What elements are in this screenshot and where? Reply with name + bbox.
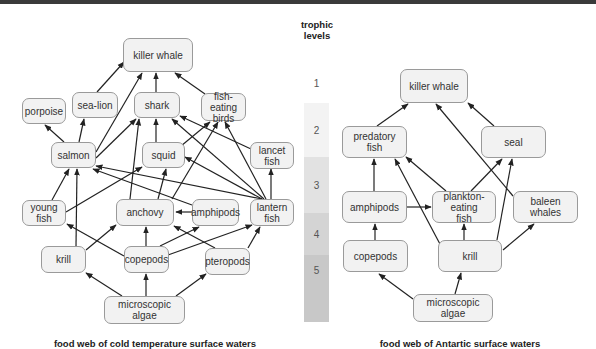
caption-left: food web of cold temperature surface wat… <box>20 338 290 349</box>
node-amphipods-right: amphipods <box>342 191 407 223</box>
node-lancet-fish: lancet fish <box>250 142 294 169</box>
node-copepods-left: copepods <box>124 246 169 273</box>
node-killer-whale-left: killer whale <box>123 38 193 72</box>
trophic-level-4-label: 4 <box>314 229 320 240</box>
trophic-level-5: 5 <box>304 255 329 322</box>
trophic-levels-title: trophic levels <box>292 19 342 41</box>
food-web-arrows <box>0 0 596 349</box>
trophic-level-1-label: 1 <box>314 78 320 89</box>
node-copepods-right: copepods <box>343 240 408 272</box>
node-squid: squid <box>142 142 185 168</box>
trophic-level-4: 4 <box>304 213 329 255</box>
node-seal: seal <box>481 126 546 158</box>
node-sea-lion: sea-lion <box>72 92 118 118</box>
trophic-level-1: 1 <box>304 64 329 103</box>
node-pteropods: pteropods <box>205 248 250 275</box>
node-killer-whale-right: killer whale <box>400 69 468 103</box>
trophic-level-2-label: 2 <box>314 125 320 136</box>
node-plankton-eating-fish: plankton-eating fish <box>432 191 496 223</box>
node-baleen-whales: baleen whales <box>513 191 578 223</box>
trophic-level-5-label: 5 <box>314 265 320 276</box>
node-amphipods-left: amphipods <box>192 199 239 226</box>
trophic-level-3: 3 <box>304 157 329 213</box>
trophic-level-3-label: 3 <box>314 180 320 191</box>
node-anchovy: anchovy <box>116 199 174 226</box>
node-salmon: salmon <box>51 142 96 168</box>
node-young-fish: young fish <box>22 200 66 226</box>
node-krill-left: krill <box>41 246 86 273</box>
node-lantern-fish: lantern fish <box>250 199 294 226</box>
node-predatory-fish: predatory fish <box>342 126 407 158</box>
node-porpoise: porpoise <box>22 98 66 124</box>
node-krill-right: krill <box>438 240 502 272</box>
node-shark: shark <box>134 92 180 118</box>
node-microscopic-algae-right: microscopic algae <box>413 294 493 322</box>
node-microscopic-algae-left: microscopic algae <box>104 296 185 324</box>
trophic-level-2: 2 <box>304 103 329 157</box>
caption-right: food web of Antartic surface waters <box>340 338 580 349</box>
node-fish-eating-birds: fish-eating birds <box>201 93 246 121</box>
